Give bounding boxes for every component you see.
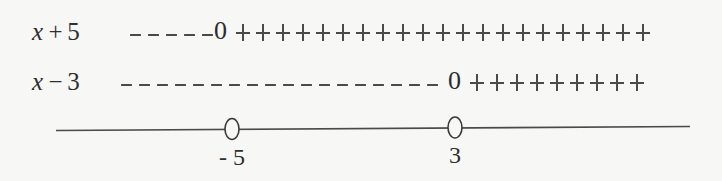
minus-sign-glyph xyxy=(121,84,132,87)
plus-sign-glyph xyxy=(356,24,370,42)
plus-sign-glyph xyxy=(436,24,450,42)
open-circle-marker-minus-5 xyxy=(225,119,239,140)
plus-sign-glyph xyxy=(316,24,330,42)
row-1-zero: 0 xyxy=(214,18,227,44)
plus-sign-glyph xyxy=(536,24,550,42)
plus-sign-glyph xyxy=(476,24,490,42)
row-1-positive-pluses xyxy=(236,23,650,43)
row-2-zero: 0 xyxy=(448,68,461,94)
minus-sign-glyph xyxy=(139,84,150,87)
tick-label-minus-5: - 5 xyxy=(202,145,262,169)
plus-sign-glyph xyxy=(276,24,290,42)
row-2-constant: 3 xyxy=(67,68,80,95)
minus-sign-glyph xyxy=(211,84,222,87)
minus-sign-glyph xyxy=(247,84,258,87)
row-1-variable: x xyxy=(32,18,44,45)
plus-sign-glyph xyxy=(510,74,524,92)
plus-sign-glyph xyxy=(550,74,564,92)
plus-sign-glyph xyxy=(256,24,270,42)
minus-sign-glyph xyxy=(409,84,420,87)
row-2-positive-pluses xyxy=(470,73,644,93)
minus-sign-glyph xyxy=(391,84,402,87)
minus-sign-glyph xyxy=(301,84,312,87)
row-1-constant: 5 xyxy=(67,18,80,45)
minus-sign-glyph xyxy=(283,84,294,87)
plus-sign-glyph xyxy=(416,24,430,42)
number-line-axis xyxy=(56,127,690,131)
row-1-operator: + xyxy=(49,18,64,45)
minus-sign-glyph xyxy=(184,34,195,37)
plus-sign-glyph xyxy=(456,24,470,42)
plus-sign-glyph xyxy=(576,24,590,42)
row-1-negative-dashes xyxy=(130,32,213,38)
plus-sign-glyph xyxy=(570,74,584,92)
plus-sign-glyph xyxy=(596,24,610,42)
tick-label-3: 3 xyxy=(425,143,485,167)
plus-sign-glyph xyxy=(610,74,624,92)
plus-sign-glyph xyxy=(396,24,410,42)
minus-sign-glyph xyxy=(319,84,330,87)
minus-sign-glyph xyxy=(337,84,348,87)
minus-sign-glyph xyxy=(355,84,366,87)
minus-sign-glyph xyxy=(202,34,213,37)
minus-sign-glyph xyxy=(175,84,186,87)
plus-sign-glyph xyxy=(496,24,510,42)
plus-sign-glyph xyxy=(616,24,630,42)
minus-sign-glyph xyxy=(166,34,177,37)
row-2-negative-dashes xyxy=(121,82,438,88)
minus-sign-glyph xyxy=(265,84,276,87)
plus-sign-glyph xyxy=(636,24,650,42)
plus-sign-glyph xyxy=(470,74,484,92)
plus-sign-glyph xyxy=(590,74,604,92)
plus-sign-glyph xyxy=(490,74,504,92)
minus-sign-glyph xyxy=(229,84,240,87)
minus-sign-glyph xyxy=(157,84,168,87)
row-1-expression-label: x+5 xyxy=(32,18,80,46)
plus-sign-glyph xyxy=(236,24,250,42)
plus-sign-glyph xyxy=(530,74,544,92)
plus-sign-glyph xyxy=(296,24,310,42)
row-2-operator: − xyxy=(49,68,64,95)
minus-sign-glyph xyxy=(148,34,159,37)
row-2-expression-label: x−3 xyxy=(32,68,80,96)
minus-sign-glyph xyxy=(427,84,438,87)
sign-chart-figure: x+5 0 x−3 0 - 5 3 xyxy=(0,0,722,181)
minus-sign-glyph xyxy=(130,34,141,37)
plus-sign-glyph xyxy=(376,24,390,42)
plus-sign-glyph xyxy=(516,24,530,42)
plus-sign-glyph xyxy=(556,24,570,42)
plus-sign-glyph xyxy=(336,24,350,42)
plus-sign-glyph xyxy=(630,74,644,92)
row-2-variable: x xyxy=(32,68,44,95)
minus-sign-glyph xyxy=(193,84,204,87)
minus-sign-glyph xyxy=(373,84,384,87)
open-circle-marker-3 xyxy=(448,117,462,138)
